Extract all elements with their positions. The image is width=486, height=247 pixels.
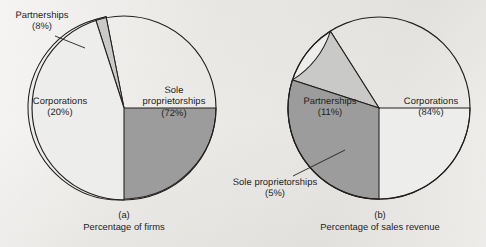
label-a-sole-percent: (72%) bbox=[130, 107, 218, 118]
caption-a: (a) Percentage of firms bbox=[54, 209, 194, 233]
label-b-partnerships-name: Partnerships bbox=[289, 95, 371, 106]
caption-b-text: Percentage of sales revenue bbox=[295, 221, 465, 233]
label-b-corporations: Corporations (84%) bbox=[389, 95, 473, 118]
label-a-corporations-percent: (20%) bbox=[18, 106, 102, 117]
label-b-corporations-percent: (84%) bbox=[389, 106, 473, 117]
panel-letter-b: (b) bbox=[295, 209, 465, 221]
label-a-partnerships: Partnerships (8%) bbox=[4, 9, 80, 32]
label-a-corporations: Corporations (20%) bbox=[18, 95, 102, 118]
caption-a-text: Percentage of firms bbox=[54, 221, 194, 233]
label-b-corporations-name: Corporations bbox=[389, 95, 473, 106]
label-b-sole-proprietorships: Sole proprietorships (5%) bbox=[219, 176, 331, 199]
label-b-partnerships-percent: (11%) bbox=[289, 106, 371, 117]
caption-b: (b) Percentage of sales revenue bbox=[295, 209, 465, 233]
label-a-sole-proprietorships: Sole proprietorships (72%) bbox=[130, 84, 218, 118]
figure-canvas: Partnerships (8%) Corporations (20%) Sol… bbox=[0, 0, 486, 247]
panel-letter-a: (a) bbox=[54, 209, 194, 221]
label-b-sole-name: Sole proprietorships bbox=[219, 176, 331, 187]
label-a-corporations-name: Corporations bbox=[18, 95, 102, 106]
label-a-partnerships-percent: (8%) bbox=[4, 20, 80, 31]
label-a-partnerships-name: Partnerships bbox=[4, 9, 80, 20]
label-a-sole-line1: Sole bbox=[130, 84, 218, 95]
label-b-sole-percent: (5%) bbox=[219, 187, 331, 198]
label-b-partnerships: Partnerships (11%) bbox=[289, 95, 371, 118]
label-a-sole-line2: proprietorships bbox=[130, 95, 218, 106]
